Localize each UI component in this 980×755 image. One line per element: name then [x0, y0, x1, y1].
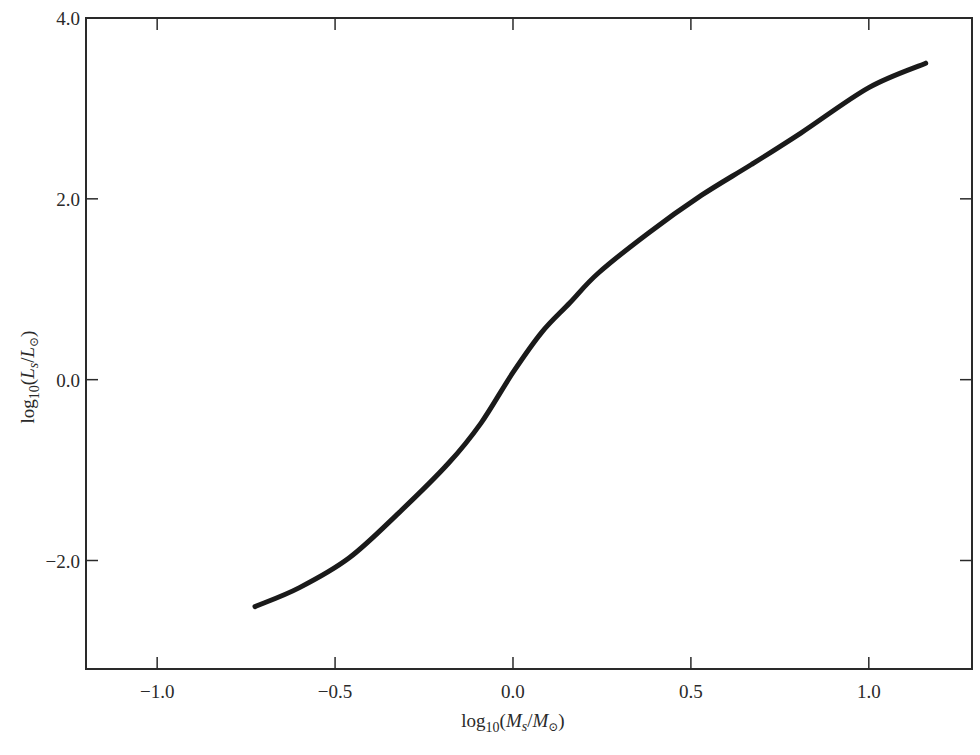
x-tick-label: 0.0 [501, 681, 525, 702]
x-tick-label: 1.0 [857, 681, 881, 702]
x-tick-label: 0.5 [679, 681, 703, 702]
mass-luminosity-curve [255, 63, 926, 606]
data-series [255, 63, 926, 606]
x-axis-ticks: −1.0−0.50.00.51.0 [140, 18, 881, 702]
chart: −1.0−0.50.00.51.0 4.02.00.0−2.0 log10(Ms… [0, 0, 980, 755]
y-tick-label: −2.0 [46, 551, 80, 572]
y-tick-label: 0.0 [56, 370, 80, 391]
x-tick-label: −1.0 [140, 681, 174, 702]
y-axis-ticks: 4.02.00.0−2.0 [46, 8, 972, 572]
y-tick-label: 4.0 [56, 8, 80, 29]
x-tick-label: −0.5 [318, 681, 352, 702]
y-axis-label: log10(Ls/L⊙) [17, 331, 42, 424]
x-axis-label: log10(Ms/M⊙) [461, 710, 564, 735]
y-tick-label: 2.0 [56, 189, 80, 210]
plot-frame [86, 18, 972, 669]
plot-border [86, 18, 972, 669]
